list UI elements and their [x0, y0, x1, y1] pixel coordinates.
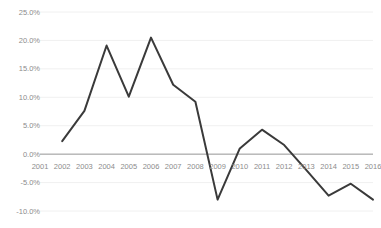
x-axis-tick-label: 2010 [231, 162, 248, 171]
x-axis-tick-label: 2013 [298, 162, 315, 171]
x-axis-tick-label: 2012 [276, 162, 293, 171]
x-axis-tick-label: 2004 [98, 162, 115, 171]
x-axis-tick-label: 2014 [320, 162, 337, 171]
x-axis-tick-label: 2003 [76, 162, 93, 171]
x-axis-tick-label: 2016 [365, 162, 381, 171]
x-axis-tick-label: 2009 [209, 162, 226, 171]
x-axis-tick-label: 2008 [187, 162, 204, 171]
x-axis-tick-label: 2011 [254, 162, 270, 171]
x-axis-tick-label: 2002 [54, 162, 71, 171]
x-axis-tick-label: 2007 [165, 162, 182, 171]
x-axis-tick-label: 2005 [120, 162, 137, 171]
x-axis-tick-label: 2015 [342, 162, 359, 171]
x-axis-tick-label: 2001 [32, 162, 49, 171]
x-axis-tick-label: 2006 [143, 162, 160, 171]
